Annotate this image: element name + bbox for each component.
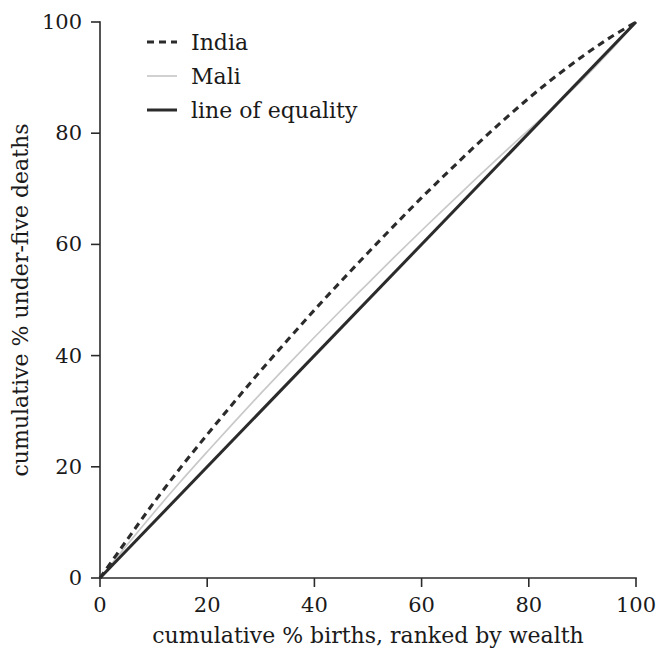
legend-label-india: India: [191, 30, 248, 55]
y-tick-label-60: 60: [55, 232, 82, 256]
y-axis-title: cumulative % under-five deaths: [8, 124, 33, 477]
x-tick-label-0: 0: [93, 593, 106, 617]
x-tick-label-20: 20: [194, 593, 221, 617]
y-axis-tick-labels: 020406080100: [42, 10, 82, 590]
x-axis-ticks: [100, 578, 636, 587]
x-tick-label-60: 60: [408, 593, 435, 617]
x-axis-title: cumulative % births, ranked by wealth: [152, 623, 584, 648]
x-tick-label-40: 40: [301, 593, 328, 617]
data-series-group: [100, 22, 636, 578]
y-tick-label-100: 100: [42, 10, 82, 34]
y-tick-label-20: 20: [55, 455, 82, 479]
y-tick-label-80: 80: [55, 121, 82, 145]
chart-canvas: 020406080100 020406080100 cumulative % b…: [0, 0, 656, 654]
series-line-line-of-equality: [100, 22, 636, 578]
x-tick-label-100: 100: [616, 593, 656, 617]
x-axis-tick-labels: 020406080100: [93, 593, 656, 617]
lorenz-curve-chart: 020406080100 020406080100 cumulative % b…: [0, 0, 656, 654]
y-axis-ticks: [91, 22, 100, 578]
chart-legend: IndiaMaliline of equality: [147, 30, 358, 123]
legend-label-mali: Mali: [191, 64, 241, 89]
y-tick-label-0: 0: [69, 566, 82, 590]
x-tick-label-80: 80: [515, 593, 542, 617]
y-tick-label-40: 40: [55, 344, 82, 368]
legend-label-line-of-equality: line of equality: [191, 98, 358, 123]
